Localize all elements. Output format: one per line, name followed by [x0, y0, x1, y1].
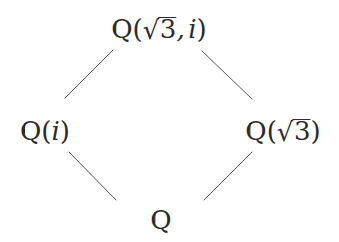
edge-q-sqrt3-to-top: [202, 51, 252, 99]
edge-q-to-q-i: [69, 152, 116, 200]
node-label-right: Q(√3): [245, 118, 320, 144]
edge-q-to-q-sqrt3: [204, 152, 252, 200]
close-paren-top: ): [197, 14, 207, 44]
radical-overbar-right: [292, 119, 310, 120]
q-double-stroke: [249, 123, 250, 134]
q-double-stroke: [24, 123, 25, 134]
radicand-top: 3: [159, 16, 176, 42]
radical-sign-right: √: [277, 119, 294, 145]
open-paren-left: (: [41, 116, 51, 146]
comma-top: ,: [176, 14, 184, 44]
node-label-top: Q(√3,i): [111, 16, 207, 42]
blackboard-q-glyph-bottom: Q: [150, 207, 171, 233]
node-label-left: Q(i): [20, 118, 70, 144]
lattice-diagram: Q(√3,i) Q(i) Q(√3) Q: [0, 0, 339, 242]
q-double-stroke: [154, 212, 155, 223]
radical-sign-top: √: [143, 17, 160, 43]
q-double-stroke: [115, 21, 116, 32]
blackboard-q-glyph-left: Q: [20, 118, 41, 144]
close-paren-left: ): [60, 116, 70, 146]
blackboard-q-glyph-top: Q: [111, 16, 132, 42]
radical-top: √3: [143, 16, 177, 42]
edge-q-i-to-top: [65, 50, 113, 98]
open-paren-right: (: [267, 116, 277, 146]
radical-right: √3: [277, 118, 311, 144]
radical-overbar-top: [158, 17, 176, 18]
blackboard-q-glyph-right: Q: [245, 118, 266, 144]
imaginary-unit-left: i: [52, 116, 60, 146]
radicand-right: 3: [293, 118, 310, 144]
open-paren-top: (: [133, 14, 143, 44]
close-paren-right: ): [310, 116, 320, 146]
node-label-bottom: Q: [150, 207, 171, 233]
